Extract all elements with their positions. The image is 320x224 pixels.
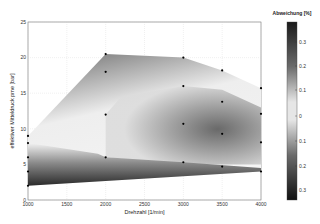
colorbar-title: Abweichung [%]	[273, 10, 312, 16]
x-tick-label: 3000	[178, 201, 189, 207]
colorbar-tick-label: 0.2	[299, 163, 306, 169]
y-tick-label: 15	[20, 90, 26, 96]
measurement-point	[260, 141, 262, 143]
measurement-point	[182, 123, 184, 125]
measurement-point	[182, 85, 184, 87]
measurement-point	[260, 87, 262, 89]
y-tick-label: 20	[20, 54, 26, 60]
colorbar-tick-label: 0.2	[299, 63, 306, 69]
measurement-point	[182, 57, 184, 59]
colorbar	[287, 22, 297, 200]
x-axis-label: Drehzahl [1/min]	[124, 209, 165, 215]
measurement-point	[105, 156, 107, 158]
x-tick-label: 3500	[217, 201, 228, 207]
measurement-point	[27, 185, 29, 187]
contour-chart: 10001500200025003000350040000510152025Dr…	[0, 0, 320, 224]
measurement-point	[27, 135, 29, 137]
y-tick-label: 0	[23, 197, 26, 203]
x-tick-label: 2000	[100, 201, 111, 207]
measurement-point	[105, 71, 107, 73]
colorbar-tick-label: 0	[299, 113, 302, 119]
y-axis-label: effektiver Mitteldruck pme [bar]	[9, 73, 15, 149]
measurement-point	[27, 170, 29, 172]
colorbar-tick-label: 0.1	[299, 138, 306, 144]
measurement-point	[27, 142, 29, 144]
y-tick-label: 5	[23, 161, 26, 167]
colorbar-tick-label: 0.3	[299, 39, 306, 45]
measurement-point	[221, 69, 223, 71]
measurement-point	[260, 170, 262, 172]
y-tick-label: 10	[20, 126, 26, 132]
measurement-point	[105, 53, 107, 55]
colorbar-tick-label: 0.3	[299, 187, 306, 193]
x-tick-label: 1500	[61, 201, 72, 207]
measurement-point	[221, 165, 223, 167]
measurement-point	[105, 113, 107, 115]
measurement-point	[27, 156, 29, 158]
measurement-point	[221, 133, 223, 135]
measurement-point	[260, 113, 262, 115]
colorbar-tick-label: 0.1	[299, 87, 306, 93]
measurement-point	[182, 161, 184, 163]
y-tick-label: 25	[20, 19, 26, 25]
x-tick-label: 2500	[139, 201, 150, 207]
x-tick-label: 4000	[255, 201, 266, 207]
measurement-point	[221, 101, 223, 103]
